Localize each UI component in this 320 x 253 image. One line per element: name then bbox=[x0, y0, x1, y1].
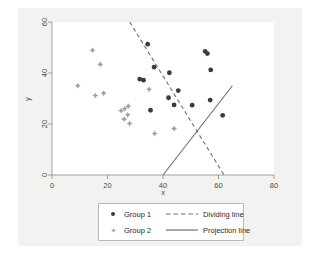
data-point bbox=[205, 51, 210, 56]
x-tick-label: 0 bbox=[50, 181, 54, 190]
y-tick-label: 0 bbox=[40, 173, 49, 177]
y-tick-label: 40 bbox=[40, 69, 49, 77]
data-point bbox=[167, 70, 172, 75]
data-point bbox=[208, 98, 213, 103]
data-point bbox=[172, 102, 177, 107]
data-point bbox=[190, 103, 195, 108]
x-tick-label: 60 bbox=[214, 181, 222, 190]
x-axis-label: x bbox=[161, 188, 165, 197]
legend-label-dividing-line: Dividing line bbox=[203, 210, 243, 219]
x-tick-label: 80 bbox=[270, 181, 278, 190]
data-point bbox=[145, 42, 150, 47]
data-point bbox=[148, 108, 153, 113]
x-tick-label: 20 bbox=[103, 181, 111, 190]
legend-label-group-2: Group 2 bbox=[124, 226, 151, 235]
legend-row-2: Group 2 Projection line bbox=[99, 222, 243, 238]
y-tick-label: 20 bbox=[40, 120, 49, 128]
data-point bbox=[152, 65, 157, 70]
data-point bbox=[141, 78, 146, 83]
line-dashed-icon bbox=[165, 211, 199, 217]
marker-circle-icon bbox=[106, 212, 120, 216]
y-axis-label: y bbox=[23, 97, 32, 101]
data-point bbox=[176, 88, 181, 93]
data-point bbox=[208, 68, 213, 73]
scatter-plot-figure: 0204060800204060 x y Group 1 Dividing li… bbox=[0, 0, 320, 253]
data-point bbox=[166, 95, 171, 100]
legend-row-1: Group 1 Dividing line bbox=[99, 206, 243, 222]
data-point bbox=[220, 113, 225, 118]
line-solid-icon bbox=[165, 227, 199, 233]
legend-label-projection-line: Projection line bbox=[203, 226, 250, 235]
legend-label-group-1: Group 1 bbox=[124, 210, 151, 219]
y-tick-label: 60 bbox=[40, 18, 49, 26]
chart-legend: Group 1 Dividing line Group 2 bbox=[98, 203, 244, 241]
plot-area-background bbox=[52, 22, 274, 175]
marker-diamond-icon bbox=[106, 228, 120, 233]
